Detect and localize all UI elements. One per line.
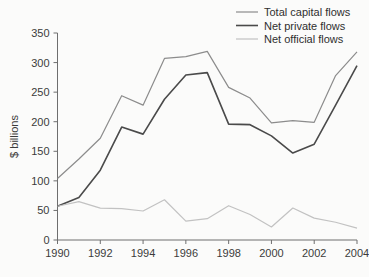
x-tick-label: 1998 <box>216 247 240 259</box>
series-lines <box>58 51 358 228</box>
x-tick-label: 2002 <box>302 247 326 259</box>
y-tick-label: 0 <box>43 234 49 246</box>
chart-container: 050100150200250300350 199019921994199619… <box>0 0 369 277</box>
chart-legend: Total capital flowsNet private flowsNet … <box>236 6 351 45</box>
series-line-2 <box>58 200 358 228</box>
x-tick-label: 2004 <box>345 247 369 259</box>
x-tick-label: 1996 <box>174 247 198 259</box>
y-tick-label: 350 <box>31 27 49 39</box>
legend-label-0: Total capital flows <box>264 6 351 18</box>
x-tick-label: 1990 <box>45 247 69 259</box>
y-axis-title-text: $ billions <box>8 115 20 158</box>
y-tick-label: 200 <box>31 116 49 128</box>
line-chart: 050100150200250300350 199019921994199619… <box>0 0 369 277</box>
y-tick-label: 300 <box>31 57 49 69</box>
x-tick-label: 2000 <box>259 247 283 259</box>
y-axis-title: $ billions <box>8 115 20 158</box>
y-tick-label: 50 <box>37 204 49 216</box>
legend-label-2: Net official flows <box>264 33 344 45</box>
x-tick-label: 1992 <box>88 247 112 259</box>
y-tick-label: 150 <box>31 145 49 157</box>
x-tick-label: 1994 <box>131 247 155 259</box>
y-tick-label: 250 <box>31 86 49 98</box>
x-axis: 19901992199419961998200020022004 <box>45 240 369 259</box>
series-line-0 <box>58 51 358 178</box>
y-tick-label: 100 <box>31 175 49 187</box>
legend-label-1: Net private flows <box>264 20 346 32</box>
series-line-1 <box>58 66 358 207</box>
y-axis: 050100150200250300350 <box>31 27 57 246</box>
